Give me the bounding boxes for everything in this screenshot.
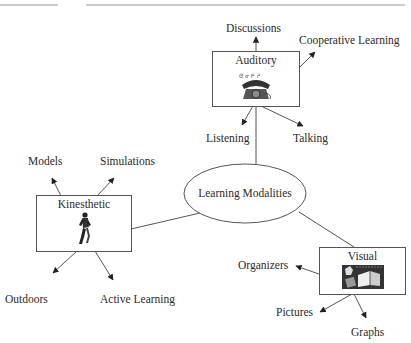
auditory-title: Auditory — [213, 55, 299, 67]
label-pictures: Pictures — [276, 307, 313, 319]
visual-title: Visual — [320, 251, 405, 263]
connector-kinesthetic — [131, 213, 200, 229]
label-models: Models — [28, 156, 63, 168]
label-active-learning: Active Learning — [100, 294, 175, 306]
svg-text:ᘓ ᓂ ᑭ ᕈ: ᘓ ᓂ ᑭ ᕈ — [239, 72, 261, 79]
auditory-node: Auditory ᘓ ᓂ ᑭ ᕈ — [212, 51, 300, 107]
visual-node: Visual — [319, 247, 406, 295]
label-outdoors: Outdoors — [5, 294, 48, 306]
label-simulations: Simulations — [100, 156, 155, 168]
kinesthetic-title: Kinesthetic — [37, 199, 131, 211]
label-discussions: Discussions — [226, 23, 281, 35]
center-label: Learning Modalities — [194, 188, 296, 200]
connector-visual — [299, 212, 354, 247]
label-talking: Talking — [293, 133, 328, 145]
kinesthetic-node: Kinesthetic — [36, 195, 132, 252]
label-listening: Listening — [206, 133, 249, 145]
label-cooperative-learning: Cooperative Learning — [299, 35, 400, 47]
label-graphs: Graphs — [351, 327, 384, 339]
books-picture-icon — [342, 265, 384, 289]
label-organizers: Organizers — [238, 260, 288, 272]
runner-icon — [75, 212, 93, 246]
telephone-icon: ᘓ ᓂ ᑭ ᕈ — [236, 67, 276, 101]
